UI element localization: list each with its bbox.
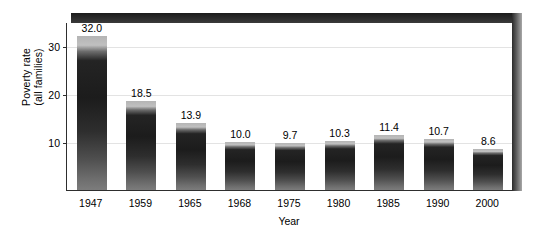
- y-tick-label: 20: [48, 89, 60, 101]
- x-tick-label: 1990: [426, 197, 449, 209]
- bar: [374, 135, 404, 190]
- bar-value-label: 13.9: [181, 109, 201, 121]
- plot-frame: 10203032.018.513.910.09.710.311.410.78.6…: [66, 13, 522, 191]
- frame-top-shadow: [71, 13, 522, 23]
- y-tick-mark: [63, 95, 67, 96]
- bar: [225, 142, 255, 190]
- x-axis-title: Year: [278, 215, 299, 227]
- bar: [325, 141, 355, 190]
- x-tick-label: 2000: [476, 197, 499, 209]
- bar: [176, 123, 206, 190]
- poverty-rate-bar-chart: Poverty rate (all families) 10203032.018…: [0, 0, 540, 248]
- bar-value-label: 18.5: [131, 87, 151, 99]
- x-tick-label: 1959: [129, 197, 152, 209]
- x-tick-label: 1947: [79, 197, 102, 209]
- y-axis-title-line-2: (all families): [33, 48, 45, 105]
- y-tick-mark: [63, 143, 67, 144]
- plot-area: 10203032.018.513.910.09.710.311.410.78.6: [66, 23, 512, 191]
- y-tick-mark: [63, 47, 67, 48]
- frame-right-shadow: [512, 13, 522, 191]
- bar-value-label: 10.3: [329, 127, 349, 139]
- bar: [275, 143, 305, 190]
- y-tick-label: 30: [48, 41, 60, 53]
- y-axis-title: Poverty rate (all families): [16, 2, 50, 152]
- bar-value-label: 32.0: [82, 22, 102, 34]
- bar-value-label: 8.6: [481, 135, 496, 147]
- bar: [473, 149, 503, 190]
- bar-value-label: 11.4: [379, 121, 399, 133]
- x-tick-label: 1968: [228, 197, 251, 209]
- y-tick-label: 10: [48, 137, 60, 149]
- bar: [126, 101, 156, 190]
- bar-value-label: 10.0: [230, 128, 250, 140]
- bar-value-label: 9.7: [283, 129, 298, 141]
- y-gridline: [67, 47, 512, 48]
- x-tick-label: 1980: [327, 197, 350, 209]
- x-tick-label: 1965: [178, 197, 201, 209]
- x-tick-label: 1985: [376, 197, 399, 209]
- x-tick-label: 1975: [277, 197, 300, 209]
- bar: [424, 139, 454, 190]
- bar: [77, 36, 107, 190]
- bar-value-label: 10.7: [428, 125, 448, 137]
